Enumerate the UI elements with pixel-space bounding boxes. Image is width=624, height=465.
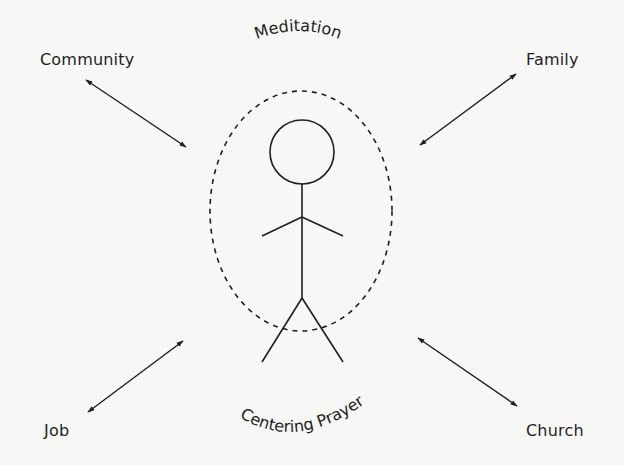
diagram-svg: Meditation Centering Prayer [0, 0, 624, 465]
arrow-church [418, 338, 517, 406]
figure-head [270, 120, 334, 184]
meditation-label: Meditation [252, 16, 345, 43]
arrow-family [420, 74, 516, 145]
arrow-job [88, 341, 183, 412]
figure-right-arm [302, 217, 343, 236]
node-family: Family [526, 50, 579, 69]
figure-left-leg [262, 298, 302, 362]
diagram-canvas: Meditation Centering Prayer Community Fa… [0, 0, 624, 465]
centering-prayer-label: Centering Prayer [237, 391, 367, 436]
figure-left-arm [262, 217, 302, 236]
dashed-boundary-ellipse [210, 91, 392, 331]
node-job: Job [44, 421, 69, 440]
arrow-community [86, 80, 186, 147]
figure-right-leg [302, 298, 343, 362]
node-community: Community [40, 50, 134, 69]
node-church: Church [526, 421, 584, 440]
